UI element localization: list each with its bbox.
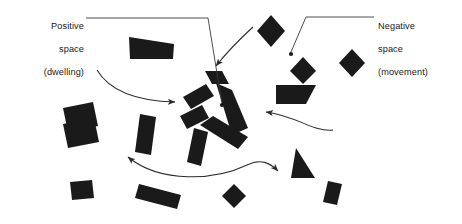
negative-space-line-1: Negative [378, 21, 415, 31]
central-pinwheel-cluster [180, 71, 248, 149]
arrow-from-right [266, 112, 333, 130]
positive-space-label: Positive space (dwelling) [6, 10, 84, 78]
arrow-from-left [97, 70, 175, 102]
negative-space-leader-line [291, 17, 374, 52]
shape-triangle-bottom-right [291, 148, 315, 178]
positive-space-line-3: (dwelling) [44, 67, 84, 77]
negative-space-line-2: space [378, 44, 403, 54]
shape-diamond-bottom-center [222, 184, 246, 208]
shape-group [63, 15, 365, 209]
cluster-bar-top-left [183, 84, 214, 109]
shape-bar-bottom-mid [187, 128, 208, 166]
shape-diamond-upper-right [339, 49, 365, 77]
shape-bar-left-lower [135, 114, 156, 155]
shape-diamond-far-right [290, 57, 316, 84]
shape-rect-bottom-right [323, 181, 342, 205]
negative-space-label: Negative space (movement) [378, 10, 460, 78]
arrow-from-top-right [216, 27, 253, 66]
negative-space-leader-dot [289, 52, 293, 56]
shape-parallelogram-right [276, 85, 316, 104]
shape-rect-small-left [70, 180, 94, 200]
shape-bar-bottom-center [135, 184, 181, 209]
positive-space-line-2: space [59, 44, 84, 54]
shape-wedge-top-left [129, 37, 174, 59]
positive-space-line-1: Positive [51, 21, 84, 31]
positive-space-leader-dot [220, 103, 224, 107]
negative-space-line-3: (movement) [378, 67, 428, 77]
diagram-canvas: Positive space (dwelling) Negative space… [0, 0, 462, 224]
shape-diamond-top-right [257, 15, 285, 47]
arrow-bottom-double [128, 157, 278, 177]
